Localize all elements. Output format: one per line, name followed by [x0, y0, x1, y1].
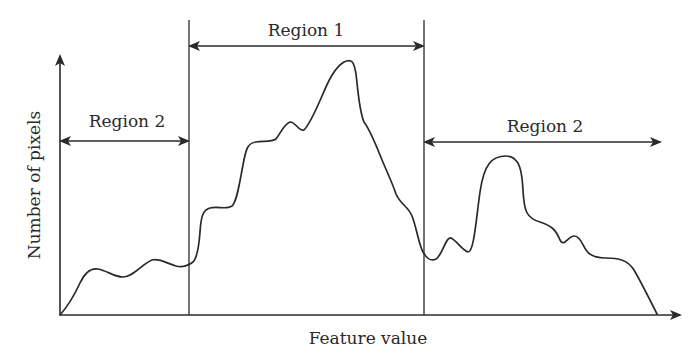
- histogram-svg: Region 1 Region 2 Region 2 Feature value…: [0, 0, 692, 361]
- x-axis-label: Feature value: [309, 328, 428, 348]
- histogram-curve: [60, 61, 657, 316]
- region-2-left-label: Region 2: [89, 111, 166, 131]
- region-1-label: Region 1: [268, 20, 345, 40]
- region-2-right-label: Region 2: [507, 116, 584, 136]
- y-axis-label: Number of pixels: [24, 111, 44, 259]
- histogram-figure: Region 1 Region 2 Region 2 Feature value…: [0, 0, 692, 361]
